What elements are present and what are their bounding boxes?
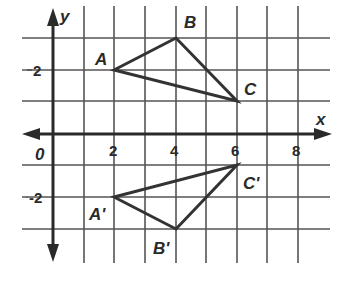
vertex-label-b-prime: B' [153,239,170,258]
y-axis-label: y [59,7,71,26]
x-axis-left-arrow-icon [22,128,40,140]
x-axis-right-arrow-icon [314,128,332,140]
vertex-label-a: A [94,50,107,69]
x-axis-label: x [315,110,327,129]
y-tick-label-2: 2 [33,62,41,79]
y-axis-up-arrow-icon [47,8,59,26]
x-tick-label-2: 2 [109,142,117,159]
vertex-label-c: C [244,80,257,99]
y-axis-down-arrow-icon [47,244,59,262]
x-tick-label-6: 6 [231,142,239,159]
x-tick-label-8: 8 [292,142,300,159]
origin-label: 0 [35,145,45,164]
vertex-label-a-prime: A' [88,205,106,224]
vertex-label-b: B [184,13,196,32]
y-tick-label-neg2: -2 [29,189,42,206]
coordinate-plane: y x 0 2 4 6 8 2 -2 A B C A' B' C' [0,0,355,282]
x-tick-label-4: 4 [170,142,179,159]
vertex-label-c-prime: C' [243,174,260,193]
